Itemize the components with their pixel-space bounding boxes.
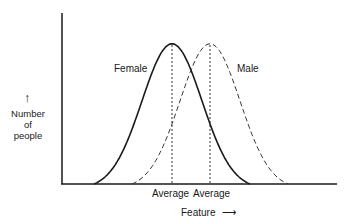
male-average-label: Average	[193, 188, 230, 199]
male-label: Male	[237, 63, 259, 74]
x-axis-label: Feature ⟶	[181, 207, 236, 218]
y-axis-label: Number of people	[6, 108, 50, 141]
y-label-line-2: of	[6, 119, 50, 130]
female-average-label: Average	[152, 188, 189, 199]
y-label-line-3: people	[6, 130, 50, 141]
x-arrow-icon: ⟶	[222, 207, 236, 218]
female-label: Female	[114, 63, 147, 74]
y-arrow-icon: ↑	[24, 92, 31, 103]
y-label-line-1: Number	[6, 108, 50, 119]
x-axis-label-text: Feature	[181, 207, 215, 218]
